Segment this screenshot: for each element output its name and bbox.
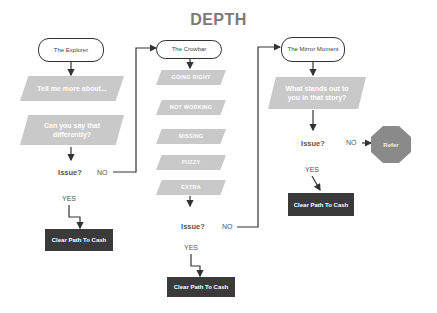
decision-issue: Issue? (50, 168, 90, 177)
decision-issue: Issue? (293, 139, 333, 148)
step-missing: MISSING (156, 129, 226, 144)
stop-refer: Refer (371, 126, 411, 163)
step-extra: EXTRA (156, 180, 226, 195)
no-label: NO (222, 223, 233, 230)
step-not-working: NOT WORKING (156, 100, 226, 115)
yes-label: YES (305, 166, 319, 173)
no-label: NO (346, 139, 357, 146)
step-going-right: GOING RIGHT (156, 70, 226, 85)
terminal-mirror-moment: The Mirror Moment (281, 37, 345, 62)
outcome-clear-path: Clear Path To Cash (288, 193, 354, 216)
terminal-crowbar: The Crowbar (156, 40, 222, 59)
yes-label: YES (62, 195, 76, 202)
decision-issue: Issue? (173, 222, 213, 231)
yes-label: YES (184, 244, 198, 251)
step-what-stands-out: What stands out to you in that story? (268, 77, 366, 109)
step-say-differently: Can you say that differently? (20, 115, 124, 145)
no-label: NO (97, 169, 108, 176)
step-tell-me-more: Tell me more about... (20, 76, 124, 101)
step-fuzzy: FUZZY (156, 155, 226, 170)
outcome-clear-path: Clear Path To Cash (45, 229, 113, 251)
outcome-clear-path: Clear Path To Cash (167, 277, 235, 297)
terminal-explorer: The Explorer (38, 38, 104, 62)
